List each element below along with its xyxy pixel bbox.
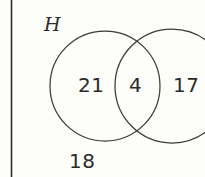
region-value-left-only: 21 bbox=[78, 75, 104, 95]
venn-diagram-figure: H 21 4 17 18 bbox=[0, 0, 205, 177]
region-value-right-only: 17 bbox=[173, 75, 199, 95]
venn-circle-left bbox=[50, 31, 160, 141]
region-value-intersection: 4 bbox=[129, 75, 142, 95]
universal-set-label: H bbox=[44, 15, 61, 34]
region-value-outside: 18 bbox=[69, 151, 95, 171]
